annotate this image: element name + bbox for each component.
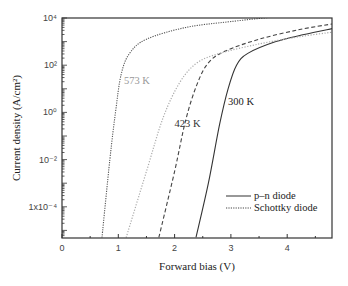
y-axis-title: Current density (A/cm²) (10, 75, 23, 181)
y-tick-label: 10⁻² (39, 155, 57, 165)
temperature-annotations: 573 K423 K300 K (124, 75, 255, 128)
iv-chart: 01234 10⁴10²10⁰10⁻²1x10⁻⁴ Forward bias (… (0, 0, 348, 286)
y-tick-label: 1x10⁻⁴ (29, 202, 58, 212)
legend-label: Schottky diode (254, 202, 318, 213)
x-tick-label: 0 (59, 243, 64, 253)
x-axis: 01234 (59, 234, 315, 253)
x-tick-label: 1 (116, 243, 121, 253)
temperature-label: 573 K (124, 75, 150, 86)
x-tick-label: 3 (228, 243, 233, 253)
temperature-label: 300 K (228, 96, 254, 107)
x-tick-label: 2 (172, 243, 177, 253)
y-axis: 10⁴10²10⁰10⁻²1x10⁻⁴ (29, 13, 67, 236)
y-tick-label: 10⁰ (43, 107, 57, 117)
temperature-label: 423 K (175, 118, 201, 129)
y-tick-label: 10⁴ (43, 13, 57, 23)
legend: p–n diodeSchottky diode (226, 190, 318, 213)
x-tick-label: 4 (285, 243, 290, 253)
y-tick-label: 10² (44, 60, 57, 70)
legend-label: p–n diode (254, 190, 296, 201)
x-axis-title: Forward bias (V) (159, 260, 235, 273)
